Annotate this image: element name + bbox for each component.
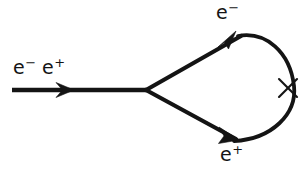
label-incoming-electron-base: e (13, 56, 25, 78)
label-incoming-positron-base: e (42, 56, 54, 78)
label-incoming-positron-charge: + (54, 55, 65, 70)
label-positron-base: e (220, 143, 232, 165)
label-positron: e+ (220, 145, 243, 164)
feynman-diagram-canvas: e−e+ e− e+ (0, 0, 308, 173)
label-incoming-electron-charge: − (25, 55, 36, 70)
loop-arc (234, 35, 294, 141)
label-incoming-particles: e−e+ (13, 58, 65, 77)
label-electron: e− (216, 3, 239, 22)
label-positron-charge: + (232, 142, 243, 157)
feynman-diagram-svg (0, 0, 308, 173)
label-electron-base: e (216, 1, 228, 23)
label-electron-charge: − (228, 0, 239, 15)
